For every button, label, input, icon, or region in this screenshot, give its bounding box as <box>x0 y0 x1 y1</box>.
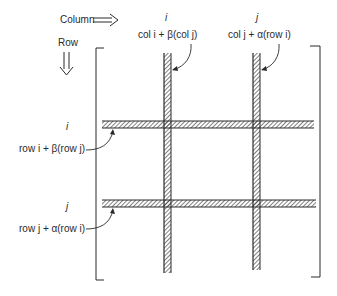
row-i-bar <box>102 121 314 128</box>
row-i-leader-arrow-icon <box>86 129 115 150</box>
row-label: Row <box>58 37 78 49</box>
column-arrow-icon <box>93 14 118 26</box>
row-j-operation: row j + α(row i) <box>19 223 85 235</box>
row-i-operation: row i + β(row j) <box>19 143 85 155</box>
matrix-right-bracket <box>310 46 320 277</box>
row-arrow-icon <box>60 52 73 75</box>
column-j-bar <box>253 53 260 270</box>
column-i-operation: col i + β(col j) <box>138 29 197 41</box>
row-j-leader-arrow-icon <box>86 208 115 229</box>
column-i-leader-arrow-icon <box>172 44 191 71</box>
column-j-leader-arrow-icon <box>261 44 279 71</box>
row-j-index: j <box>66 201 68 213</box>
column-i-index: i <box>165 12 167 24</box>
column-j-operation: col j + α(row i) <box>228 29 291 41</box>
row-i-index: i <box>66 121 68 133</box>
column-i-bar <box>164 53 171 273</box>
row-j-bar <box>102 200 316 207</box>
column-j-index: j <box>256 12 258 24</box>
matrix-left-bracket <box>96 48 104 280</box>
column-label: Column <box>60 14 94 26</box>
